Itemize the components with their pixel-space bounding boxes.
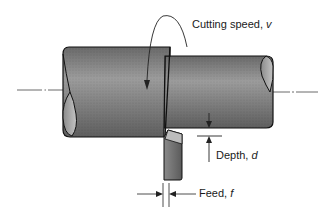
cutting-speed-text: Cutting speed, (192, 18, 266, 30)
depth-text: Depth, (216, 149, 251, 161)
workpiece-large-diameter (63, 47, 170, 137)
turning-diagram (0, 0, 334, 215)
workpiece-reduced-diameter (164, 56, 273, 128)
feed-dimension (137, 183, 196, 207)
feed-label: Feed, f (199, 187, 233, 199)
feed-text: Feed, (199, 187, 230, 199)
feed-variable: f (230, 187, 233, 199)
depth-variable: d (251, 149, 257, 161)
cutting-speed-variable: v (266, 18, 272, 30)
cutting-tool (164, 130, 182, 180)
cutting-speed-label: Cutting speed, v (192, 18, 272, 30)
depth-label: Depth, d (216, 149, 258, 161)
